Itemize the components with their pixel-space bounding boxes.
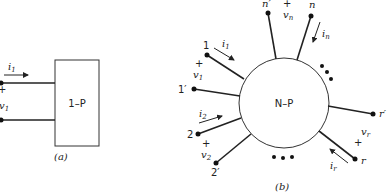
voltage-v2-label: v2 [201,149,212,162]
terminal-n-dot [309,14,314,19]
terminal-1-prime-dot [192,87,197,92]
two-panel-port-diagram: 1–P i1 + v1 (a) N–P 1 i1 + v1 1′ i2 2 + … [0,0,388,193]
current-ir-label: ir [330,160,337,173]
terminal-1-dot [205,53,210,58]
terminal-2-prime-dot [214,161,219,166]
voltage-v1-label: v1 [193,69,203,82]
plus-sign: + [0,84,6,95]
terminal-1-prime-label: 1′ [178,84,187,95]
one-port-label: 1–P [68,98,85,109]
n-port-label: N–P [275,98,294,109]
current-in-label: in [322,28,330,41]
ellipsis-dot [320,64,324,68]
plus-r: + [354,137,362,148]
ellipsis-dot [325,70,329,74]
ellipsis-dot [290,155,294,159]
terminal-n-prime-dot [266,11,271,16]
current-i2-label: i2 [199,108,207,121]
ellipsis-dot [281,156,285,160]
terminal-1-label: 1 [203,40,209,51]
port-2-prime-lead [216,134,251,163]
terminal-2-dot [196,132,201,137]
plus-n: + [283,0,291,9]
caption-b: (b) [275,181,289,192]
terminal-2-label: 2 [187,129,193,140]
current-label-i1: i1 [8,61,16,74]
current-arrow-1-icon [214,48,234,60]
current-arrow-n-icon [313,22,320,42]
terminal-n-prime-label: n′ [262,0,271,9]
current-i1-label: i1 [222,38,230,51]
terminal-r-dot [353,157,358,162]
terminal-r-prime-dot [371,112,376,117]
port-r-prime-lead [328,106,373,114]
plus-1: + [195,58,203,69]
caption-a: (a) [54,151,68,162]
port-n-prime-lead [268,13,276,59]
terminal-dot-1-prime [0,118,4,123]
ellipsis-dot [329,77,333,81]
figure-a-one-port: 1–P i1 + v1 (a) [0,60,99,162]
plus-2: + [202,138,210,149]
voltage-vn-label: vn [283,9,294,22]
voltage-label-v1: v1 [0,100,9,113]
voltage-vr-label: vr [361,126,371,139]
ellipsis-dot [272,155,276,159]
terminal-n-label: n [309,0,315,10]
terminal-r-prime-label: r′ [379,108,387,119]
terminal-2-prime-label: 2′ [211,167,220,178]
port-n-lead [297,16,311,60]
port-1-prime-lead [194,89,240,96]
figure-b-n-port: N–P 1 i1 + v1 1′ i2 2 + v2 2′ r′ r [178,0,387,192]
port-1-lead [207,55,244,79]
terminal-r-label: r [361,155,367,166]
